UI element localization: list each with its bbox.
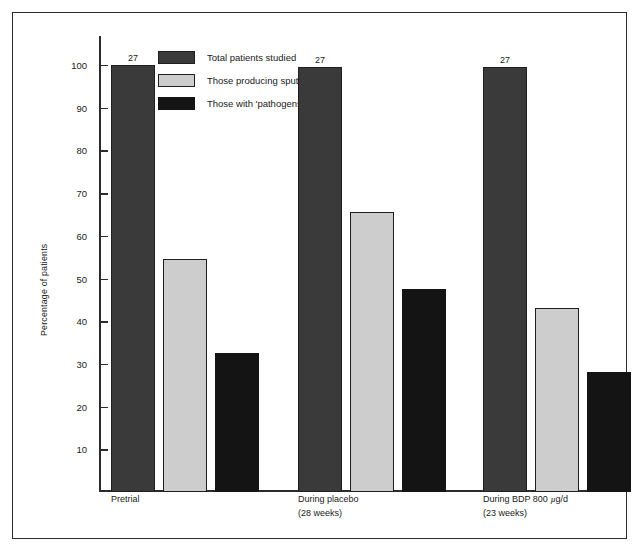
- y-axis-tick-label: 30: [76, 358, 87, 369]
- x-axis-label-line2: (23 weeks): [483, 506, 568, 520]
- plot-area: Percentage of patients 10203040506070809…: [99, 36, 603, 504]
- x-axis-label-group-0: Pretrial: [111, 492, 140, 506]
- bar-value-label: 27: [128, 53, 138, 63]
- y-axis-tick-mark: [100, 150, 108, 151]
- bar-total-group-1: 27: [298, 67, 342, 492]
- micro-symbol: µ: [550, 494, 555, 504]
- bar-pathogen-group-2: [587, 372, 631, 492]
- bar-value-label: 27: [500, 55, 510, 65]
- y-axis-tick-mark: [100, 364, 108, 365]
- bar-pathogen-group-0: [215, 353, 259, 492]
- y-axis-tick-mark: [100, 407, 108, 408]
- bar-sputum-group-2: [535, 308, 579, 492]
- y-axis-tick-mark: [100, 108, 108, 109]
- bar-value-label: 27: [315, 55, 325, 65]
- y-axis-tick-label: 70: [76, 188, 87, 199]
- y-axis-tick-mark: [100, 65, 108, 66]
- x-axis-label-line1: During BDP 800 µg/d: [483, 494, 568, 504]
- x-axis-label-group-1: During placebo(28 weeks): [298, 492, 359, 520]
- y-axis-tick-label: 10: [76, 444, 87, 455]
- bar-sputum-group-1: [350, 212, 394, 492]
- y-axis-line: [99, 36, 101, 492]
- y-axis-tick-label: 40: [76, 316, 87, 327]
- y-axis-tick-mark: [100, 236, 108, 237]
- figure-frame: Total patients studied Those producing s…: [12, 12, 627, 539]
- y-axis-tick-label: 90: [76, 102, 87, 113]
- bar-total-group-2: 27: [483, 67, 527, 492]
- y-axis-tick-mark: [100, 449, 108, 450]
- y-axis-tick-label: 20: [76, 401, 87, 412]
- y-axis-title: Percentage of patients: [39, 244, 49, 336]
- y-axis-tick-mark: [100, 321, 108, 322]
- y-axis-tick-label: 80: [76, 145, 87, 156]
- x-axis-label-line1: Pretrial: [111, 494, 140, 504]
- y-axis-tick-mark: [100, 193, 108, 194]
- bar-total-group-0: 27: [111, 65, 155, 492]
- y-axis-tick-label: 100: [71, 60, 87, 71]
- y-axis-tick-mark: [100, 279, 108, 280]
- bar-pathogen-group-1: [402, 289, 446, 492]
- x-axis-label-line2: (28 weeks): [298, 506, 359, 520]
- y-axis-tick-label: 60: [76, 230, 87, 241]
- y-axis-tick-label: 50: [76, 273, 87, 284]
- x-axis-label-group-2: During BDP 800 µg/d(23 weeks): [483, 492, 568, 520]
- bar-sputum-group-0: [163, 259, 207, 492]
- x-axis-label-line1: During placebo: [298, 494, 359, 504]
